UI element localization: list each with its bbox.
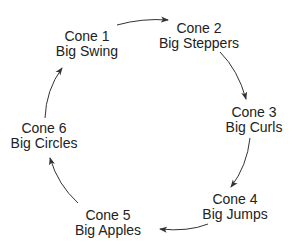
arrow-cone2-to-cone3 [220,52,246,99]
node-cone-6: Cone 6 Big Circles [11,121,78,151]
node-subtitle: Big Curls [226,120,283,135]
node-cone-5: Cone 5 Big Apples [75,208,141,238]
node-title: Cone 1 [56,29,118,44]
node-title: Cone 5 [75,208,141,223]
node-subtitle: Big Circles [11,136,78,151]
node-subtitle: Big Steppers [159,36,239,51]
node-cone-1: Cone 1 Big Swing [56,29,118,59]
arrow-cone5-to-cone6 [50,158,78,203]
arrow-cone3-to-cone4 [231,138,250,187]
node-cone-4: Cone 4 Big Jumps [202,192,267,222]
node-title: Cone 6 [11,121,78,136]
node-cone-3: Cone 3 Big Curls [226,105,283,135]
node-subtitle: Big Apples [75,223,141,238]
node-title: Cone 2 [159,21,239,36]
node-title: Cone 4 [202,192,267,207]
arrow-cone6-to-cone1 [45,68,62,118]
node-subtitle: Big Swing [56,44,118,59]
node-subtitle: Big Jumps [202,207,267,222]
node-cone-2: Cone 2 Big Steppers [159,21,239,51]
arrow-cone4-to-cone5 [160,224,208,230]
node-title: Cone 3 [226,105,283,120]
